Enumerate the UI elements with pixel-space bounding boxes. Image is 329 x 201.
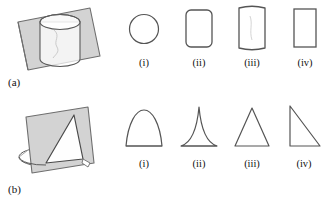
shape-circle <box>118 0 170 56</box>
option-caption: (iv) <box>279 57 329 69</box>
option-a-iii[interactable]: (iii) <box>226 0 278 69</box>
option-b-i[interactable]: (i) <box>118 101 170 170</box>
shape-rounded-rectangle <box>173 0 225 56</box>
panel-b: (b) (i) (ii) <box>0 101 329 201</box>
panel-a: (a) (i) (ii) <box>0 0 329 100</box>
option-b-ii[interactable]: (ii) <box>173 101 225 170</box>
option-caption: (iii) <box>226 57 278 69</box>
cylinder-plane-diagram <box>4 0 114 78</box>
shape-arch-convex <box>118 101 170 157</box>
option-b-iv[interactable]: (iv) <box>278 101 329 170</box>
figure-root: (a) (i) (ii) <box>0 0 329 201</box>
shape-cusp-concave <box>173 101 225 157</box>
option-a-ii[interactable]: (ii) <box>173 0 225 69</box>
option-caption: (iii) <box>226 158 278 170</box>
options-row-b: (i) (ii) (iii) <box>118 101 329 191</box>
option-caption: (i) <box>118 158 170 170</box>
shape-isosceles-triangle <box>226 101 278 157</box>
options-row-a: (i) (ii) (iii) <box>118 0 329 90</box>
option-a-iv[interactable]: (iv) <box>279 0 329 69</box>
panel-label-a: (a) <box>8 76 20 88</box>
panel-label-b: (b) <box>8 183 21 195</box>
shape-right-triangle <box>278 101 329 157</box>
shape-rectangle-curved-ends <box>226 0 278 56</box>
option-a-i[interactable]: (i) <box>118 0 170 69</box>
option-caption: (ii) <box>173 57 225 69</box>
shape-rectangle <box>279 0 329 56</box>
option-caption: (i) <box>118 57 170 69</box>
option-b-iii[interactable]: (iii) <box>226 101 278 170</box>
cone-plane-diagram <box>4 101 114 179</box>
option-caption: (ii) <box>173 158 225 170</box>
option-caption: (iv) <box>278 158 329 170</box>
